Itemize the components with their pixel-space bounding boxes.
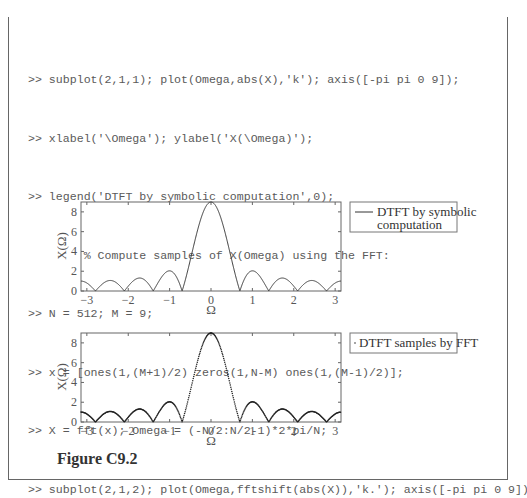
svg-text:6: 6 bbox=[71, 225, 77, 239]
svg-text:−1: −1 bbox=[163, 293, 176, 307]
y-axis-label: X(Ω) bbox=[54, 232, 69, 260]
svg-text:0: 0 bbox=[71, 284, 77, 298]
x-axis-label: Ω bbox=[206, 433, 216, 448]
plot-fft-samples: −3−2−1012302468 Ω X(Ω) DTFT samples by F… bbox=[54, 332, 478, 448]
svg-text:2: 2 bbox=[291, 424, 297, 438]
svg-text:−2: −2 bbox=[122, 424, 135, 438]
svg-text:4: 4 bbox=[71, 244, 77, 258]
svg-text:6: 6 bbox=[71, 356, 77, 370]
figure-plots: −3−2−1012302468 Ω X(Ω) DTFT by symbolic … bbox=[0, 0, 527, 498]
legend: DTFT samples by FFT bbox=[350, 333, 478, 353]
svg-text:−1: −1 bbox=[163, 424, 176, 438]
x-axis-label: Ω bbox=[206, 302, 216, 317]
svg-text:−3: −3 bbox=[80, 293, 93, 307]
svg-text:4: 4 bbox=[71, 375, 77, 389]
fft-sample-dots bbox=[80, 332, 341, 422]
legend-label: DTFT samples by FFT bbox=[359, 335, 478, 350]
svg-text:0: 0 bbox=[71, 415, 77, 429]
svg-text:2: 2 bbox=[71, 395, 77, 409]
axes-box bbox=[81, 333, 341, 422]
svg-text:2: 2 bbox=[71, 264, 77, 278]
svg-text:8: 8 bbox=[71, 205, 77, 219]
legend-dot-icon bbox=[354, 342, 356, 344]
plot-symbolic-dtft: −3−2−1012302468 Ω X(Ω) DTFT by symbolic … bbox=[54, 202, 477, 317]
legend-label-line2: computation bbox=[377, 217, 442, 232]
figure-caption: Figure C9.2 bbox=[57, 450, 138, 468]
axes-box bbox=[81, 202, 341, 291]
svg-text:−2: −2 bbox=[122, 293, 135, 307]
svg-text:−3: −3 bbox=[80, 424, 93, 438]
svg-text:2: 2 bbox=[291, 293, 297, 307]
svg-text:3: 3 bbox=[332, 293, 338, 307]
y-axis-label: X(Ω) bbox=[54, 363, 69, 391]
legend: DTFT by symbolic computation bbox=[350, 202, 477, 232]
dtft-curve bbox=[81, 202, 341, 291]
svg-text:8: 8 bbox=[71, 336, 77, 350]
svg-text:1: 1 bbox=[249, 293, 255, 307]
svg-text:1: 1 bbox=[249, 424, 255, 438]
svg-text:3: 3 bbox=[332, 424, 338, 438]
